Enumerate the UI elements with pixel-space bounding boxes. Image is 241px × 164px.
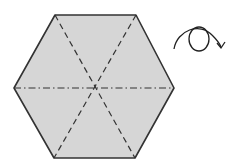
turn-over-icon: [174, 27, 225, 51]
origami-diagram: [0, 0, 241, 164]
diagram-svg: [0, 0, 241, 164]
hexagon-paper: [14, 15, 174, 158]
